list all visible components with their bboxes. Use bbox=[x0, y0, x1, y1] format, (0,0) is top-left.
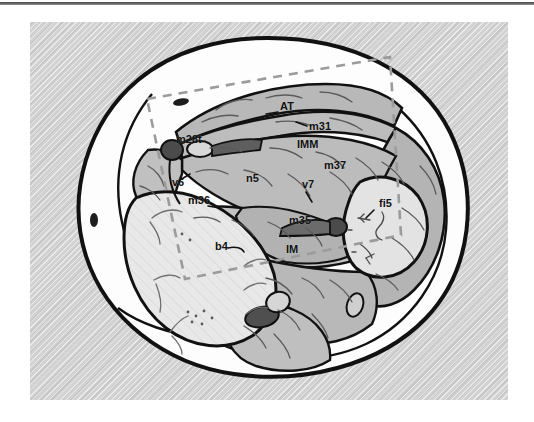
label-m36: m36 bbox=[188, 194, 210, 206]
vessel-subcutaneous-lower-left bbox=[90, 213, 98, 227]
structure-fi5 bbox=[343, 177, 427, 277]
label-AT: AT bbox=[280, 100, 294, 112]
figure-plate: AT m31 m28t IMM v6 n5 m37 v7 m36 m35 fi5… bbox=[30, 22, 508, 400]
label-fi5: fi5 bbox=[379, 197, 392, 209]
label-m31: m31 bbox=[309, 120, 331, 132]
label-m35: m35 bbox=[289, 214, 311, 226]
anatomical-cross-section-drawing: AT m31 m28t IMM v6 n5 m37 v7 m36 m35 fi5… bbox=[30, 22, 508, 400]
label-v7: v7 bbox=[302, 178, 314, 190]
label-b4: b4 bbox=[215, 240, 229, 252]
label-n5: n5 bbox=[246, 172, 259, 184]
label-m37: m37 bbox=[324, 159, 346, 171]
label-m28t: m28t bbox=[176, 133, 202, 145]
label-IMM: IMM bbox=[297, 138, 318, 150]
scan-top-rule bbox=[0, 2, 534, 5]
label-IM: IM bbox=[286, 243, 298, 255]
